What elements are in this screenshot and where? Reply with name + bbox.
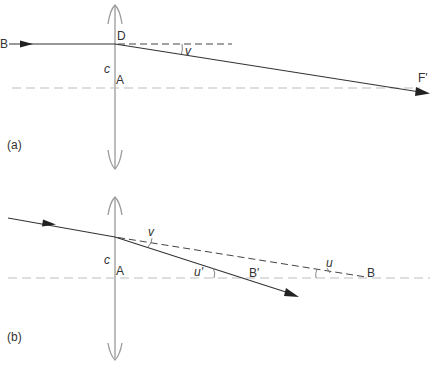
ray-arrow-icon	[42, 220, 56, 227]
angle-v-arc-a	[182, 44, 183, 54]
caption-a: (a)	[7, 138, 22, 152]
angle-v-arc-b	[148, 238, 152, 247]
label-B-b: B	[367, 266, 375, 280]
incoming-ray-b	[8, 218, 115, 237]
label-B-a: B	[0, 37, 8, 51]
label-D: D	[117, 29, 126, 43]
angle-u-arc	[316, 269, 317, 278]
label-v-a: v	[185, 44, 192, 58]
label-c-b: c	[104, 253, 110, 267]
refracted-ray-a	[115, 44, 420, 92]
panel-a: B D v c A F' (a)	[0, 5, 430, 169]
label-c-a: c	[104, 62, 110, 76]
caption-b: (b)	[7, 330, 22, 344]
panel-b: v c A u' B' u B (b)	[7, 197, 430, 360]
focus-arrow-icon	[415, 87, 430, 96]
label-u: u	[326, 256, 333, 270]
label-v-b: v	[148, 225, 155, 239]
ray-arrow-icon	[20, 41, 33, 48]
image-arrow-icon	[284, 288, 299, 297]
label-u-prime: u'	[194, 265, 204, 279]
refracted-ray-b	[115, 237, 292, 294]
label-A-a: A	[116, 73, 124, 87]
label-A-b: A	[116, 264, 124, 278]
label-F-prime: F'	[418, 71, 428, 85]
label-B-prime: B'	[249, 266, 259, 280]
